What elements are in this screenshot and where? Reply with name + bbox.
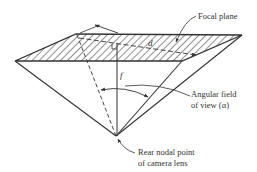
rear-nodal-label-line2: of camera lens [138, 158, 188, 168]
focal-length-label: f [120, 70, 124, 80]
diagonal-label: d [148, 38, 153, 48]
angular-field-label-line1: Angular field [191, 89, 237, 99]
focal-plane-label: Focal plane [198, 11, 238, 21]
rear-nodal-leader [118, 139, 135, 153]
angular-field-arc [101, 89, 148, 97]
rear-nodal-label-line1: Rear nodal point [138, 147, 195, 157]
top-edge-tick [80, 25, 100, 33]
top-edge-arrow [95, 25, 118, 33]
focal-plane [15, 34, 242, 61]
angular-field-leader [125, 85, 190, 96]
focal-plane-diagram: Focal plane d f Angular field of view (α… [0, 0, 257, 172]
angular-field-label-line2: of view (α) [191, 100, 229, 110]
